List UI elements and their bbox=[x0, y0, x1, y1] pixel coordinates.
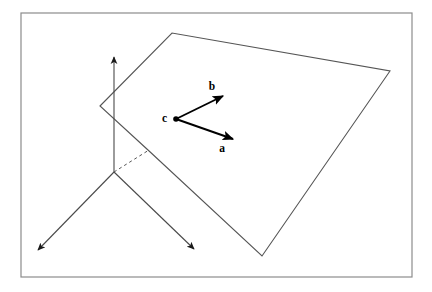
vector-a-label: a bbox=[219, 142, 225, 154]
vector-b-label: b bbox=[209, 80, 215, 92]
axis-lower-left-icon bbox=[38, 172, 114, 250]
plane-polygon bbox=[100, 33, 390, 256]
vector-a-arrow-icon bbox=[176, 119, 233, 139]
vector-b-arrow-icon bbox=[176, 96, 223, 119]
hidden-edge-dashed bbox=[114, 150, 149, 172]
figure-frame bbox=[21, 13, 412, 277]
figure-root: c b a bbox=[0, 0, 432, 292]
axis-lower-right-icon bbox=[114, 172, 194, 249]
point-c-dot bbox=[173, 116, 179, 122]
point-c-label: c bbox=[162, 112, 167, 124]
vector-plane-diagram: c b a bbox=[0, 0, 432, 292]
